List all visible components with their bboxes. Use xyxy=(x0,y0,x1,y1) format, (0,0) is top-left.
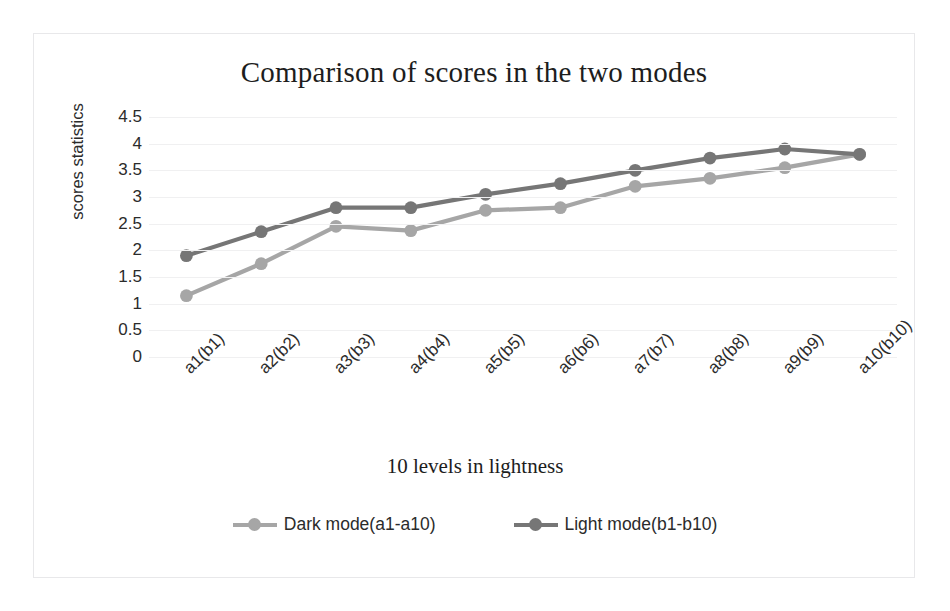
gridline xyxy=(149,330,897,331)
data-point-marker xyxy=(778,161,791,174)
series-line-2 xyxy=(186,149,859,256)
chart-title: Comparison of scores in the two modes xyxy=(34,56,914,89)
chart-legend: Dark mode(a1-a10)Light mode(b1-b10) xyxy=(34,514,916,535)
data-point-marker xyxy=(704,172,717,185)
gridline xyxy=(149,304,897,305)
legend-item-2[interactable]: Light mode(b1-b10) xyxy=(514,514,718,535)
data-point-marker xyxy=(853,148,866,161)
legend-label: Dark mode(a1-a10) xyxy=(284,514,436,535)
data-point-marker xyxy=(554,201,567,214)
y-tick-label: 0.5 xyxy=(82,320,142,340)
data-point-marker xyxy=(479,188,492,201)
gridline xyxy=(149,277,897,278)
legend-marker-icon xyxy=(233,518,277,532)
y-tick-label: 4.5 xyxy=(82,107,142,127)
data-point-marker xyxy=(255,225,268,238)
y-tick-label: 0 xyxy=(82,347,142,367)
gridline xyxy=(149,117,897,118)
data-point-marker xyxy=(479,204,492,217)
data-point-marker xyxy=(629,180,642,193)
gridline xyxy=(149,170,897,171)
y-tick-label: 3.5 xyxy=(82,160,142,180)
y-tick-label: 4 xyxy=(82,134,142,154)
data-point-marker xyxy=(704,152,717,165)
series-lines xyxy=(149,117,897,357)
gridline xyxy=(149,224,897,225)
data-point-marker xyxy=(330,220,343,233)
data-point-marker xyxy=(180,289,193,302)
y-tick-label: 2.5 xyxy=(82,214,142,234)
plot-area xyxy=(149,117,897,357)
data-point-marker xyxy=(554,177,567,190)
data-point-marker xyxy=(404,224,417,237)
x-axis-title: 10 levels in lightness xyxy=(34,454,916,479)
data-point-marker xyxy=(404,201,417,214)
x-axis-tick-labels: a1(b1)a2(b2)a3(b3)a4(b4)a5(b5)a6(b6)a7(b… xyxy=(149,364,897,459)
data-point-marker xyxy=(330,201,343,214)
y-tick-label: 1.5 xyxy=(82,267,142,287)
gridline xyxy=(149,144,897,145)
legend-label: Light mode(b1-b10) xyxy=(565,514,718,535)
legend-item-1[interactable]: Dark mode(a1-a10) xyxy=(233,514,436,535)
chart-frame: Comparison of scores in the two modes 4.… xyxy=(33,33,915,578)
y-tick-label: 1 xyxy=(82,294,142,314)
legend-marker-icon xyxy=(514,518,558,532)
gridline xyxy=(149,197,897,198)
data-point-marker xyxy=(255,257,268,270)
y-tick-label: 3 xyxy=(82,187,142,207)
gridline xyxy=(149,250,897,251)
y-tick-label: 2 xyxy=(82,240,142,260)
y-axis-title: scores statistics xyxy=(68,67,87,257)
